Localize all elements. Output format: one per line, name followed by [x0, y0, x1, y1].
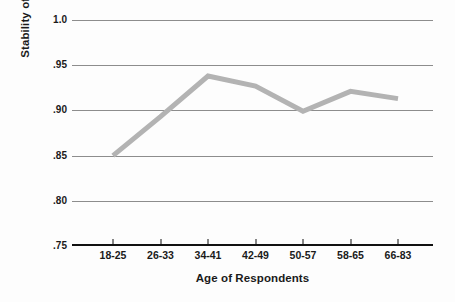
- y-tick-label: 1.0: [53, 15, 67, 25]
- x-tick-labels-group: 18-2526-3334-4142-4950-5758-6566-83: [72, 250, 433, 266]
- y-tick-label: .80: [53, 196, 67, 206]
- y-tick-label: .85: [53, 151, 67, 161]
- data-series-line: [113, 76, 398, 156]
- x-tick-label: 50-57: [290, 250, 317, 261]
- y-tick-label: .90: [53, 105, 67, 115]
- x-tick-label: 26-33: [147, 250, 174, 261]
- y-tick-label: .75: [53, 241, 67, 251]
- line-chart: Stability of Attitudes 1.0.95.90.85.80.7…: [0, 0, 455, 302]
- x-tick-label: 42-49: [242, 250, 269, 261]
- y-tick-label: .95: [53, 60, 67, 70]
- x-axis-title: Age of Respondents: [72, 272, 433, 284]
- x-tick-label: 58-65: [337, 250, 364, 261]
- plot-area: 1.0.95.90.85.80.75: [72, 20, 433, 246]
- data-line-svg: [72, 20, 433, 246]
- x-tick-label: 34-41: [195, 250, 222, 261]
- x-tick-label: 18-25: [100, 250, 127, 261]
- y-axis-title: Stability of Attitudes: [19, 0, 35, 76]
- x-tick-label: 66-83: [385, 250, 412, 261]
